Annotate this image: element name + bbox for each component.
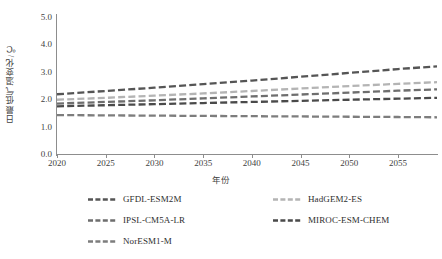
x-tick-label: 2035 (194, 159, 212, 168)
x-tick-label: 2050 (340, 159, 358, 168)
legend-swatch-icon (88, 216, 116, 225)
series-lines (57, 17, 437, 154)
y-tick-label: 2.0 (22, 95, 52, 104)
x-axis-title: 年份 (0, 173, 442, 185)
x-tick-label: 2055 (389, 159, 407, 168)
legend-item[interactable]: HadGEM2-ES (273, 192, 362, 206)
legend-item[interactable]: MIROC-ESM-CHEM (273, 213, 389, 227)
legend-label: NorESM1-M (123, 237, 172, 246)
legend-swatch-icon (273, 195, 301, 204)
x-axis-line (56, 154, 438, 155)
x-tick-mark (301, 155, 302, 158)
y-axis-title: 日最低气温变化/℃ (2, 22, 20, 144)
x-axis-tick-labels: 20202025203020352040204520502055 (0, 159, 442, 173)
y-tick-label: 3.0 (22, 67, 52, 76)
x-tick-label: 2030 (145, 159, 163, 168)
legend-item[interactable]: GFDL-ESM2M (88, 192, 182, 206)
x-tick-mark (203, 155, 204, 158)
y-axis-tick-labels: 0.01.02.03.04.05.0 (22, 10, 52, 160)
legend-label: MIROC-ESM-CHEM (308, 216, 389, 225)
legend-label: IPSL-CM5A-LR (123, 216, 185, 225)
climate-line-chart: 日最低气温变化/℃ 0.01.02.03.04.05.0 20202025203… (0, 0, 442, 259)
y-axis-title-label: 日最低气温变化/℃ (7, 44, 16, 123)
x-tick-label: 2025 (97, 159, 115, 168)
x-tick-label: 2020 (48, 159, 66, 168)
legend-item[interactable]: IPSL-CM5A-LR (88, 213, 185, 227)
x-tick-mark (398, 155, 399, 158)
legend-label: HadGEM2-ES (308, 195, 362, 204)
x-tick-mark (349, 155, 350, 158)
x-tick-mark (106, 155, 107, 158)
legend-swatch-icon (273, 216, 301, 225)
plot-area (57, 17, 437, 154)
x-tick-label: 2040 (243, 159, 261, 168)
legend-swatch-icon (88, 237, 116, 246)
x-tick-label: 2045 (292, 159, 310, 168)
legend-item[interactable]: NorESM1-M (88, 234, 172, 248)
y-tick-label: 4.0 (22, 40, 52, 49)
x-tick-mark (57, 155, 58, 158)
y-tick-label: 5.0 (22, 13, 52, 22)
chart-legend: GFDL-ESM2MHadGEM2-ESIPSL-CM5A-LRMIROC-ES… (88, 192, 428, 254)
legend-swatch-icon (88, 195, 116, 204)
x-tick-mark (252, 155, 253, 158)
y-tick-label: 1.0 (22, 122, 52, 131)
legend-label: GFDL-ESM2M (123, 195, 182, 204)
x-tick-mark (154, 155, 155, 158)
series-line (57, 115, 437, 117)
